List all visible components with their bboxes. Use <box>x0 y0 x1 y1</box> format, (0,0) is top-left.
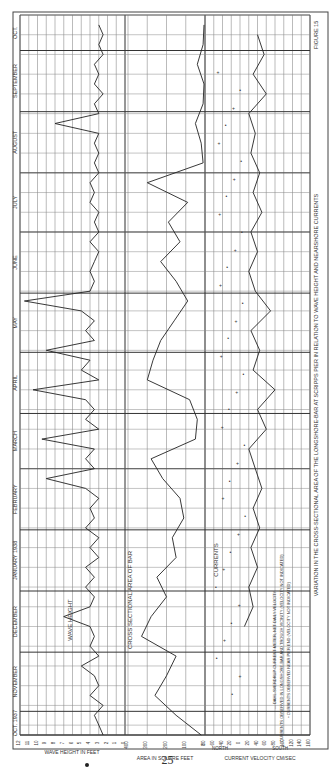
svg-text:80: 80 <box>201 740 206 746</box>
svg-text:MAY: MAY <box>12 317 18 329</box>
grid-lines <box>20 15 310 735</box>
svg-text:CURRENTS: CURRENTS <box>213 543 219 576</box>
svg-text:JANUARY 1938: JANUARY 1938 <box>12 541 18 580</box>
svg-text:60: 60 <box>210 740 215 746</box>
svg-text:400: 400 <box>124 741 129 749</box>
svg-text:•: • <box>243 442 245 448</box>
svg-text:40: 40 <box>219 740 224 746</box>
svg-text:300: 300 <box>143 741 148 749</box>
svg-text:MARCH: MARCH <box>12 431 18 451</box>
svg-text:+: + <box>217 69 220 75</box>
svg-text:• CURRENTS OBSERVED NEAR PIER: • CURRENTS OBSERVED NEAR PIER END (VELOC… <box>286 582 291 718</box>
svg-text:+: + <box>223 637 226 643</box>
data-series: •+•+•+•+•+•+•+•+•+•+•+•+•+•+•+•+•+•+ <box>24 25 275 735</box>
svg-text:AUGUST: AUGUST <box>12 130 18 154</box>
svg-text:20: 20 <box>245 740 250 746</box>
svg-text:•: • <box>242 300 244 306</box>
svg-text:•: • <box>240 158 242 164</box>
svg-text:APRIL: APRIL <box>12 375 18 391</box>
svg-text:•: • <box>227 335 229 341</box>
svg-text:+: + <box>222 566 225 572</box>
svg-text:•: • <box>215 584 217 590</box>
svg-text:4: 4 <box>86 741 91 744</box>
svg-text:6: 6 <box>69 741 74 744</box>
svg-text:12: 12 <box>16 740 21 746</box>
svg-text:80: 80 <box>271 740 276 746</box>
svg-text:+: + <box>234 318 237 324</box>
svg-text:2: 2 <box>104 741 109 744</box>
figure-15-chart: •+•+•+•+•+•+•+•+•+•+•+•+•+•+•+•+•+•+ OCT… <box>0 0 335 777</box>
svg-text:9: 9 <box>42 741 47 744</box>
svg-text:FIGURE 15: FIGURE 15 <box>313 21 319 49</box>
svg-text:•: • <box>230 549 232 555</box>
svg-text:VARIATION IN THE CROSS-SECTION: VARIATION IN THE CROSS-SECTIONAL AREA OF… <box>313 193 319 596</box>
svg-text:•: • <box>216 655 218 661</box>
svg-text:10: 10 <box>34 740 39 746</box>
svg-text:•: • <box>226 264 228 270</box>
svg-text:120: 120 <box>289 739 294 747</box>
svg-text:7: 7 <box>60 741 65 744</box>
svg-text:+: + <box>218 211 221 217</box>
svg-text:+: + <box>217 140 220 146</box>
svg-text:JULY: JULY <box>12 196 18 209</box>
svg-text:200: 200 <box>163 741 168 749</box>
svg-text:+: + <box>220 353 223 359</box>
svg-text:SOUTH: SOUTH <box>272 746 288 751</box>
svg-text:OCT. 1937: OCT. 1937 <box>12 710 18 736</box>
svg-text:1: 1 <box>112 741 117 744</box>
svg-text:140: 140 <box>297 739 302 747</box>
svg-text:60: 60 <box>262 740 267 746</box>
svg-text:•: • <box>243 371 245 377</box>
svg-text:NORTH: NORTH <box>212 746 228 751</box>
svg-text:•: • <box>241 229 243 235</box>
svg-text:JUNE: JUNE <box>12 255 18 270</box>
svg-text:+: + <box>237 531 240 537</box>
svg-text:+: + <box>234 247 237 253</box>
svg-text:•: • <box>239 87 241 93</box>
svg-text:+: + <box>239 673 242 679</box>
svg-text:3: 3 <box>95 741 100 744</box>
svg-text:DECEMBER: DECEMBER <box>12 606 18 637</box>
svg-text:+: + <box>232 105 235 111</box>
svg-text:CROSS SECTIONAL AREA OF BAR: CROSS SECTIONAL AREA OF BAR <box>127 550 133 649</box>
svg-text:•: • <box>230 620 232 626</box>
svg-text:— DAHL-SVERDRUP CURRENT METER,: — DAHL-SVERDRUP CURRENT METER, NET DAILY… <box>272 591 277 710</box>
svg-text:+: + <box>221 424 224 430</box>
svg-text:NOVEMBER: NOVEMBER <box>12 666 18 698</box>
svg-text:11: 11 <box>25 740 30 745</box>
svg-text:WAVE HEIGHT: WAVE HEIGHT <box>67 599 73 641</box>
svg-text:•: • <box>225 122 227 128</box>
svg-text:+: + <box>221 495 224 501</box>
svg-text:20: 20 <box>227 740 232 746</box>
svg-text:+ CURRENTS OBSERVED IN LONGSHO: + CURRENTS OBSERVED IN LONGSHORE-BAR AND… <box>279 554 284 746</box>
svg-text:•: • <box>226 193 228 199</box>
axis-labels: OCT. 1937NOVEMBERDECEMBERJANUARY 1938FEB… <box>12 21 319 767</box>
svg-text:5: 5 <box>77 741 82 744</box>
svg-text:0: 0 <box>236 741 241 744</box>
svg-text:SEPTEMBER: SEPTEMBER <box>12 64 18 98</box>
svg-text:+: + <box>219 282 222 288</box>
svg-text:•: • <box>231 691 233 697</box>
svg-text:40: 40 <box>254 740 259 746</box>
svg-text:160: 160 <box>306 739 311 747</box>
svg-text:•: • <box>229 478 231 484</box>
svg-text:+: + <box>238 602 241 608</box>
svg-text:FEBRUARY: FEBRUARY <box>12 484 18 514</box>
page-number: 25 <box>0 753 335 768</box>
svg-text:+: + <box>235 389 238 395</box>
svg-text:•: • <box>244 513 246 519</box>
svg-text:•: • <box>228 406 230 412</box>
svg-text:+: + <box>233 176 236 182</box>
svg-text:OCT.: OCT. <box>12 26 18 39</box>
svg-text:8: 8 <box>51 741 56 744</box>
svg-text:100: 100 <box>182 741 187 749</box>
svg-text:+: + <box>236 460 239 466</box>
